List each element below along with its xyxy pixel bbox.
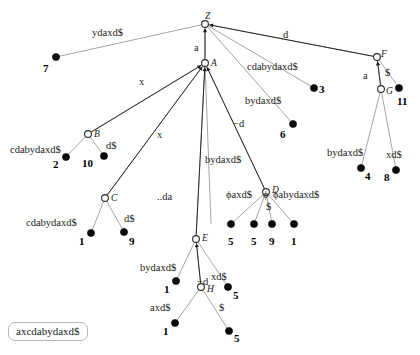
edge-label: cdabydaxd$	[247, 62, 298, 73]
edge-label: ydaxd$	[92, 28, 123, 39]
tree-edge	[175, 287, 201, 323]
leaf-number: 10	[82, 158, 93, 169]
suffix-link	[107, 67, 202, 195]
suffix-tree-figure: ydaxd$acdabydaxd$bydaxd$dxx..dabydaxd$−d…	[0, 0, 420, 355]
edge-label: $	[266, 202, 271, 213]
leaf-node	[395, 84, 402, 91]
edge-label: x	[139, 77, 144, 88]
edge-label: ..da	[157, 192, 172, 203]
leaf-number: 6	[280, 129, 286, 140]
tree-edge	[205, 24, 293, 124]
edge-label: bydaxd$	[327, 148, 363, 159]
leaf-number: 9	[129, 236, 135, 247]
leaf-number: 1	[79, 236, 85, 247]
suffix-link	[92, 65, 201, 131]
node-name: Z	[205, 12, 210, 22]
input-string-box: axcdabydaxd$	[8, 322, 88, 341]
edge-label: bydaxd$	[205, 155, 241, 166]
leaf-node	[171, 319, 178, 326]
node-name: G	[386, 87, 393, 97]
leaf-node	[87, 229, 94, 236]
leaf-number: 4	[365, 171, 371, 182]
edge-label: d$	[106, 141, 117, 152]
leaf-node	[100, 152, 107, 159]
edge-label: xd$	[211, 272, 227, 283]
internal-node	[85, 131, 92, 138]
tree-canvas	[0, 0, 420, 355]
leaf-number: 7	[43, 63, 49, 74]
tree-nodes	[52, 21, 402, 335]
node-name: H	[207, 285, 214, 295]
node-name: C	[111, 194, 117, 204]
leaf-number: 8	[384, 172, 390, 183]
leaf-node	[357, 164, 364, 171]
leaf-number: 9	[269, 236, 275, 247]
suffix-link-arrowhead	[195, 244, 199, 248]
node-name: E	[202, 234, 208, 244]
leaf-number: 5	[234, 333, 240, 344]
leaf-number: 1	[291, 236, 297, 247]
internal-node	[378, 86, 385, 93]
leaf-node	[268, 220, 275, 227]
leaf-node	[392, 166, 399, 173]
edge-label: x	[157, 130, 162, 141]
internal-node	[102, 195, 109, 202]
tree-edge	[361, 89, 381, 168]
tree-edge	[66, 134, 88, 157]
edge-label: bydaxd$	[245, 96, 281, 107]
tree-edge	[205, 24, 314, 88]
edge-label: a	[363, 71, 368, 82]
edge-label: axd$	[150, 303, 170, 314]
leaf-number: 3	[319, 84, 325, 95]
leaf-number: 11	[397, 96, 407, 107]
node-name: A	[211, 59, 217, 69]
edge-label: −d	[233, 119, 244, 130]
leaf-node	[310, 84, 317, 91]
edge-label: $	[219, 303, 224, 314]
leaf-node	[52, 53, 59, 60]
tree-edge	[56, 24, 205, 57]
leaf-node	[290, 220, 297, 227]
edge-label: $	[385, 68, 390, 79]
leaf-number: 5	[233, 290, 239, 301]
leaf-node	[289, 120, 296, 127]
edge-label: cdabydaxd$	[10, 145, 61, 156]
leaf-node	[225, 327, 232, 334]
leaf-node	[250, 220, 257, 227]
suffix-link-arrowhead	[203, 29, 207, 33]
leaf-number: 1	[163, 326, 169, 337]
edge-label: d$	[124, 214, 135, 225]
leaf-number: 2	[53, 159, 59, 170]
leaf-number: 5	[251, 236, 257, 247]
leaf-node	[227, 220, 234, 227]
tree-edge	[176, 239, 196, 281]
edge-label: ϕ	[263, 190, 269, 201]
internal-node	[202, 60, 209, 67]
node-name: F	[381, 50, 387, 60]
node-name: D	[272, 186, 279, 196]
tree-edge	[201, 287, 229, 331]
internal-node	[202, 21, 209, 28]
tree-edge	[91, 198, 105, 233]
suffix-link-arrowhead	[202, 68, 206, 72]
edge-label: xd$	[386, 150, 402, 161]
leaf-node	[224, 283, 231, 290]
leaf-number: 1	[164, 284, 170, 295]
leaf-node	[120, 228, 127, 235]
edge-label: d	[283, 30, 288, 41]
leaf-node	[62, 153, 69, 160]
edge-label: cdabydaxd$	[26, 218, 77, 229]
edge-label: ϕaxd$	[226, 190, 252, 201]
leaf-number: 5	[228, 236, 234, 247]
internal-node	[193, 236, 200, 243]
edge-label: bydaxd$	[140, 263, 176, 274]
leaf-node	[172, 277, 179, 284]
tree-edge	[205, 63, 211, 224]
node-name: B	[94, 130, 100, 140]
edge-label: ϕabydaxd$	[273, 190, 319, 201]
edge-label: a	[194, 43, 199, 54]
internal-node	[374, 54, 381, 61]
suffix-link	[196, 68, 205, 235]
